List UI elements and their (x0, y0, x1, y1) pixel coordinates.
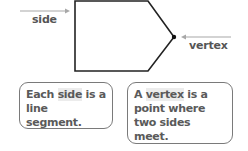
side-callout-pre: Each (26, 88, 58, 101)
vertex-label: vertex (189, 40, 228, 52)
vertex-callout-pre: A (134, 88, 146, 101)
vertex-callout-box: A vertex is a point where two sides meet… (127, 82, 233, 144)
side-label: side (32, 14, 57, 26)
side-callout-highlight: side (58, 88, 82, 101)
vertex-callout-highlight: vertex (146, 88, 184, 101)
vertex-point (172, 35, 176, 39)
pentagon-shape (75, 1, 174, 71)
side-callout-box: Each side is a line segment. (19, 82, 113, 129)
